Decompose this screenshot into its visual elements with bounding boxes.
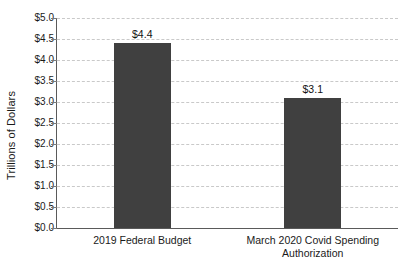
y-axis-tick-mark [51,102,57,103]
y-axis-tick-mark [51,39,57,40]
y-axis-tick-mark [51,228,57,229]
gridline [57,144,398,145]
gridline [57,102,398,103]
category-label-line: Authorization [223,247,403,260]
y-axis-tick-label: $2.0 [16,139,54,149]
y-axis-tick-mark [51,81,57,82]
y-axis-tick-mark [51,144,57,145]
category-label-line: 2019 Federal Budget [52,234,232,247]
bar-value-label: $4.4 [102,29,182,40]
y-axis-tick-label: $4.0 [16,55,54,65]
y-axis-tick-label: $3.0 [16,97,54,107]
x-axis-category-label: 2019 Federal Budget [52,234,232,247]
y-axis-tick-mark [51,186,57,187]
gridline [57,186,398,187]
y-axis-tick-label: $1.5 [16,160,54,170]
y-axis-tick-label: $0.0 [16,223,54,233]
y-axis-tick-label: $0.5 [16,202,54,212]
y-axis-tick-mark [51,165,57,166]
category-label-line: March 2020 Covid Spending [223,234,403,247]
gridline [57,18,398,19]
y-axis-tick-mark [51,207,57,208]
x-axis-category-label: March 2020 Covid SpendingAuthorization [223,234,403,260]
gridline [57,165,398,166]
gridline [57,60,398,61]
y-axis-tick-label: $5.0 [16,13,54,23]
x-axis-line [56,228,398,229]
gridline [57,123,398,124]
bar[interactable] [114,43,171,228]
y-axis-tick-label: $3.5 [16,76,54,86]
plot-area [57,18,398,228]
bar-value-label: $3.1 [273,84,353,95]
bar-chart: Trillions of Dollars $5.0$4.5$4.0$3.5$3.… [0,0,417,271]
gridline [57,207,398,208]
y-axis-tick-mark [51,60,57,61]
y-axis-tick-label: $1.0 [16,181,54,191]
y-axis-tick-label: $4.5 [16,34,54,44]
gridline [57,81,398,82]
y-axis-tick-labels: $5.0$4.5$4.0$3.5$3.0$2.5$2.0$1.5$1.0$0.5… [16,18,54,228]
bar[interactable] [284,98,341,228]
y-axis-tick-label: $2.5 [16,118,54,128]
y-axis-tick-mark [51,18,57,19]
y-axis-tick-mark [51,123,57,124]
